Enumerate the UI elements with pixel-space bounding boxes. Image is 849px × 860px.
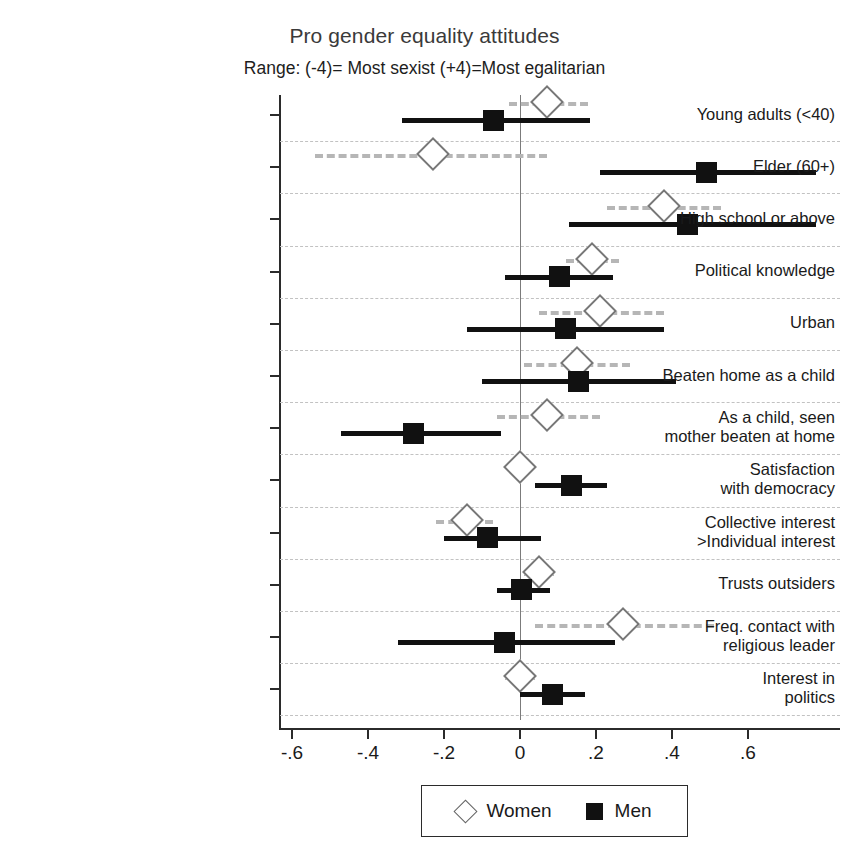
x-axis-tick — [443, 728, 445, 739]
legend-item-women[interactable]: Women — [457, 800, 551, 822]
horizontal-gridline — [280, 663, 840, 664]
x-axis-tick-label: -.4 — [338, 742, 398, 764]
y-axis-tick — [270, 218, 280, 220]
x-axis-tick-label: 0 — [490, 742, 550, 764]
x-axis-tick — [291, 728, 293, 739]
zero-reference-line — [520, 95, 521, 720]
y-axis-category-label: Freq. contact withreligious leader — [581, 617, 849, 655]
data-point-women — [530, 398, 564, 432]
y-axis-category-label: Collective interest>Individual interest — [581, 513, 849, 551]
y-axis-category-label: High school or above — [581, 209, 849, 228]
x-axis-tick-label: -.2 — [414, 742, 474, 764]
y-axis-tick — [270, 271, 280, 273]
data-point-men — [511, 579, 532, 600]
y-axis-tick — [270, 479, 280, 481]
x-axis-tick — [747, 728, 749, 739]
x-axis-tick — [519, 728, 521, 739]
forest-plot-figure: Pro gender equality attitudes Range: (-4… — [0, 0, 849, 860]
open-diamond-icon — [454, 799, 478, 823]
horizontal-gridline — [280, 141, 840, 142]
chart-legend: Women Men — [421, 785, 688, 837]
x-axis-tick-label: .6 — [718, 742, 778, 764]
data-point-men — [494, 632, 515, 653]
y-axis-category-label: Trusts outsiders — [581, 574, 849, 593]
horizontal-gridline — [280, 298, 840, 299]
data-point-men — [403, 423, 424, 444]
data-point-women — [503, 450, 537, 484]
y-axis-category-label: Urban — [581, 313, 849, 332]
horizontal-gridline — [280, 559, 840, 560]
y-axis-category-label: Young adults (<40) — [581, 105, 849, 124]
y-axis-category-label: Satisfactionwith democracy — [581, 460, 849, 498]
y-axis-category-label: Interest inpolitics — [581, 669, 849, 707]
filled-square-icon — [586, 803, 603, 820]
y-axis-tick — [270, 166, 280, 168]
x-axis-tick-label: .4 — [642, 742, 702, 764]
y-axis-tick — [270, 688, 280, 690]
y-axis-tick — [270, 636, 280, 638]
horizontal-gridline — [280, 715, 840, 716]
y-axis-tick — [270, 323, 280, 325]
y-axis-category-label: Beaten home as a child — [581, 366, 849, 385]
legend-label-women: Women — [486, 800, 551, 822]
horizontal-gridline — [280, 402, 840, 403]
horizontal-gridline — [280, 507, 840, 508]
y-axis-tick — [270, 584, 280, 586]
y-axis-category-label: Political knowledge — [581, 261, 849, 280]
horizontal-gridline — [280, 246, 840, 247]
x-axis-tick — [671, 728, 673, 739]
data-point-women — [416, 137, 450, 171]
horizontal-gridline — [280, 454, 840, 455]
data-point-women — [530, 85, 564, 119]
data-point-men — [549, 266, 570, 287]
horizontal-gridline — [280, 611, 840, 612]
data-point-men — [477, 527, 498, 548]
data-point-men — [542, 684, 563, 705]
y-axis-tick — [270, 114, 280, 116]
x-axis-tick — [595, 728, 597, 739]
horizontal-gridline — [280, 193, 840, 194]
data-point-men — [561, 475, 582, 496]
chart-subtitle: Range: (-4)= Most sexist (+4)=Most egali… — [0, 58, 849, 79]
legend-item-men[interactable]: Men — [586, 800, 652, 822]
y-axis-tick — [270, 532, 280, 534]
y-axis-tick — [270, 427, 280, 429]
chart-title: Pro gender equality attitudes — [0, 24, 849, 48]
data-point-men — [555, 318, 576, 339]
data-point-men — [483, 110, 504, 131]
data-point-women — [503, 659, 537, 693]
y-axis-tick — [270, 375, 280, 377]
x-axis-tick-label: .2 — [566, 742, 626, 764]
horizontal-gridline — [280, 350, 840, 351]
x-axis-tick — [367, 728, 369, 739]
y-axis-category-label: As a child, seenmother beaten at home — [581, 408, 849, 446]
x-axis-tick-label: -.6 — [262, 742, 322, 764]
y-axis-category-label: Elder (60+) — [581, 157, 849, 176]
legend-label-men: Men — [615, 800, 652, 822]
x-axis-line — [279, 728, 840, 730]
